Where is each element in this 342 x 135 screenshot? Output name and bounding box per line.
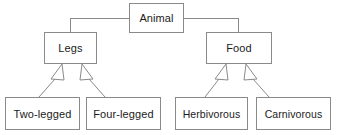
node-animal-label: Animal xyxy=(139,12,173,24)
diagram-canvas: Animal Legs Food Two-legged Four-legged … xyxy=(0,0,342,135)
node-food[interactable]: Food xyxy=(206,32,272,64)
edge-food-herbivorous xyxy=(205,79,219,97)
edge-food-carnivorous xyxy=(253,79,269,97)
node-two-legged[interactable]: Two-legged xyxy=(5,97,80,130)
node-herbivorous[interactable]: Herbivorous xyxy=(175,97,248,130)
edge-animal-legs xyxy=(71,18,130,32)
arrowhead-legs-four-legged xyxy=(80,64,93,80)
node-four-legged[interactable]: Four-legged xyxy=(86,97,161,130)
node-carnivorous[interactable]: Carnivorous xyxy=(256,97,331,130)
node-herbivorous-label: Herbivorous xyxy=(183,108,241,120)
edge-legs-two-legged xyxy=(39,79,55,97)
node-two-legged-label: Two-legged xyxy=(14,108,72,120)
node-legs[interactable]: Legs xyxy=(44,32,97,64)
node-food-label: Food xyxy=(226,42,251,54)
edge-animal-food xyxy=(184,18,239,32)
node-four-legged-label: Four-legged xyxy=(93,108,153,120)
arrowhead-food-carnivorous xyxy=(244,64,257,80)
arrowhead-legs-two-legged xyxy=(51,64,64,80)
node-carnivorous-label: Carnivorous xyxy=(265,108,323,120)
node-legs-label: Legs xyxy=(58,42,82,54)
edge-legs-four-legged xyxy=(89,79,105,97)
arrowhead-food-herbivorous xyxy=(215,64,228,80)
node-animal[interactable]: Animal xyxy=(129,3,184,33)
